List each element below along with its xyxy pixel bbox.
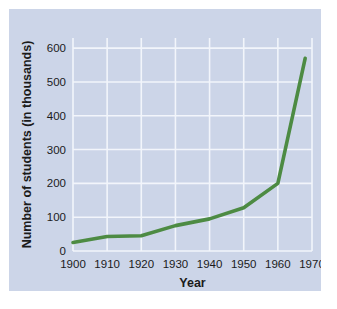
chart-figure: 0100200300400500600 19001910192019301940… [0,0,337,309]
x-axis-title: Year [179,276,206,290]
y-axis-tick-labels: 0100200300400500600 [47,42,66,257]
y-axis-title: Number of students (in thousands) [20,41,34,249]
x-axis-tick-label: 1930 [163,258,189,270]
x-axis-tick-label: 1950 [231,258,257,270]
x-axis-tick-label: 1900 [60,258,86,270]
y-axis-tick-label: 100 [47,211,66,223]
x-axis-tick-labels: 19001910192019301940195019601970 [60,258,321,270]
x-axis-tick-label: 1910 [94,258,120,270]
y-axis-tick-label: 600 [47,42,66,54]
x-axis-tick-label: 1940 [197,258,223,270]
y-axis-tick-label: 200 [47,177,66,189]
x-axis-tick-label: 1970 [299,258,321,270]
y-axis-tick-label: 0 [60,245,66,257]
gridlines-group [73,38,312,251]
y-axis-tick-label: 300 [47,144,66,156]
y-axis-tick-label: 400 [47,110,66,122]
line-chart-plot: 0100200300400500600 19001910192019301940… [9,9,321,291]
x-axis-tick-label: 1920 [128,258,154,270]
chart-panel: 0100200300400500600 19001910192019301940… [9,9,321,291]
x-axis-tick-label: 1960 [265,258,291,270]
y-axis-tick-label: 500 [47,76,66,88]
